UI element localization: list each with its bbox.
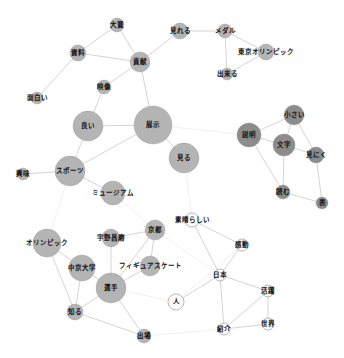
node-medal[interactable]: メダル	[215, 24, 236, 38]
node-label: 表	[318, 198, 326, 207]
node-label: 感動	[235, 240, 249, 249]
node-label: 京都	[148, 225, 162, 234]
node-koken[interactable]: 貢献	[130, 52, 150, 72]
node-label: 中京大学	[68, 263, 96, 272]
node-olympic[interactable]: オリンピック	[26, 229, 68, 257]
edge-nihon-shokai	[220, 275, 224, 329]
node-tenji[interactable]: 展示	[134, 106, 172, 144]
node-label: 見れる	[169, 26, 191, 35]
node-chiisai[interactable]: 小さい	[283, 105, 305, 125]
node-label: 見にく	[305, 150, 327, 159]
node-museum[interactable]: ミュージアム	[92, 181, 134, 205]
node-shiru[interactable]: 知る	[67, 304, 83, 320]
node-label: 東京オリンピック	[238, 47, 294, 56]
node-label: 知る	[68, 307, 82, 316]
node-omoshiroi[interactable]: 面白い	[27, 92, 48, 104]
node-minikui[interactable]: 見にく	[305, 147, 327, 163]
node-label: オリンピック	[26, 238, 68, 247]
node-sports[interactable]: スポーツ	[55, 156, 85, 186]
node-label: 出来る	[217, 69, 238, 78]
node-kyomi[interactable]: 興味	[16, 168, 30, 180]
node-moji[interactable]: 文字	[273, 134, 295, 156]
node-dekiru[interactable]: 出来る	[217, 68, 238, 80]
node-label: 面白い	[27, 93, 48, 102]
node-setsumei[interactable]: 説明	[237, 123, 261, 147]
node-shokai[interactable]: 紹介	[217, 323, 231, 335]
node-shutsujo[interactable]: 出場	[137, 329, 151, 343]
edge-shutsujo-shokai	[144, 329, 224, 336]
edge-shiryo-omoshiroi	[37, 53, 78, 98]
node-hito[interactable]: 人	[168, 294, 184, 310]
network-graph: 大賞資料貢献映像面白い見れるメダル東京オリンピック出来る良い展示見るスポーツ興味…	[0, 0, 344, 358]
node-figure[interactable]: フィギュアスケート	[119, 256, 182, 276]
node-kyoto[interactable]: 京都	[145, 220, 165, 240]
node-yomu[interactable]: 読む	[276, 185, 290, 199]
node-label: 活躍	[261, 286, 275, 295]
node-label: 読む	[276, 187, 290, 196]
node-label: 大賞	[110, 20, 124, 29]
node-label: 文字	[276, 140, 291, 149]
node-uno[interactable]: 宇野昌磨	[97, 229, 125, 247]
node-chukyo[interactable]: 中京大学	[68, 255, 96, 281]
node-label: スポーツ	[56, 166, 84, 175]
node-label: フィギュアスケート	[119, 261, 182, 270]
edge-subarashii-nihon	[192, 220, 220, 275]
node-label: 見る	[176, 153, 191, 162]
node-layer: 大賞資料貢献映像面白い見れるメダル東京オリンピック出来る良い展示見るスポーツ興味…	[16, 18, 328, 343]
node-label: 小さい	[283, 110, 305, 119]
node-subarashii[interactable]: 素晴らしい	[175, 213, 210, 227]
node-eizo[interactable]: 映像	[97, 80, 111, 94]
node-nihon[interactable]: 日本	[213, 269, 227, 281]
node-label: 世界	[261, 319, 275, 328]
edge-shiru-shutsujo	[75, 312, 144, 336]
node-mireru[interactable]: 見れる	[169, 23, 191, 39]
node-taisho[interactable]: 大賞	[110, 18, 124, 32]
node-label: 貢献	[133, 57, 147, 66]
node-hyo[interactable]: 表	[316, 197, 328, 209]
node-label: ミュージアム	[92, 189, 134, 197]
node-yoi[interactable]: 良い	[73, 111, 103, 141]
node-label: 映像	[97, 82, 111, 91]
graph-svg: 大賞資料貢献映像面白い見れるメダル東京オリンピック出来る良い展示見るスポーツ興味…	[0, 0, 344, 358]
node-tokyo[interactable]: 東京オリンピック	[238, 44, 294, 60]
node-label: 宇野昌磨	[97, 233, 125, 242]
node-label: 興味	[16, 169, 30, 178]
node-label: 説明	[242, 130, 256, 139]
node-label: 選手	[104, 283, 118, 292]
node-label: 資料	[71, 48, 85, 57]
node-shiryo[interactable]: 資料	[70, 45, 86, 61]
node-senshu[interactable]: 選手	[96, 273, 126, 303]
node-label: 素晴らしい	[175, 215, 210, 224]
node-label: 日本	[213, 270, 227, 279]
node-label: 出場	[137, 331, 151, 340]
node-label: 展示	[145, 120, 160, 129]
node-label: メダル	[215, 26, 236, 35]
node-miru[interactable]: 見る	[169, 143, 199, 173]
node-label: 人	[173, 297, 180, 306]
node-label: 良い	[81, 121, 95, 130]
node-sekai[interactable]: 世界	[261, 318, 275, 330]
node-label: 紹介	[217, 324, 231, 333]
